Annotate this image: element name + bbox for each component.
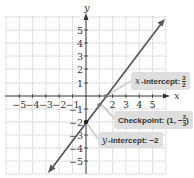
checkpoint-label: Checkpoint: (1, − 2 3 ) xyxy=(114,111,193,129)
svg-text:3: 3 xyxy=(77,51,83,62)
checkpoint-text: Checkpoint: (1, − xyxy=(118,116,183,125)
line-arrow-up-icon xyxy=(158,19,166,27)
svg-text:−4: −4 xyxy=(26,99,40,110)
svg-text:4: 4 xyxy=(136,99,142,110)
svg-text:5: 5 xyxy=(149,99,155,110)
svg-text:3: 3 xyxy=(123,99,129,110)
x-tick-labels: −5 −4 −3 −2 −1 2 3 4 5 xyxy=(12,99,155,110)
x-axis-label: x xyxy=(174,90,180,101)
svg-text:−2: −2 xyxy=(52,99,66,110)
y-intercept-point xyxy=(84,120,88,124)
y-intercept-text: -intercept: −2 xyxy=(108,136,158,145)
svg-text:2: 2 xyxy=(110,99,116,110)
svg-text:−5: −5 xyxy=(12,99,26,110)
svg-text:−2: −2 xyxy=(69,117,83,128)
svg-text:2: 2 xyxy=(77,64,83,75)
x-intercept-point xyxy=(104,94,108,98)
checkpoint-suffix: ) xyxy=(186,116,189,125)
y-intercept-label: y -intercept: −2 xyxy=(98,132,163,148)
svg-text:5: 5 xyxy=(77,25,83,36)
svg-text:1: 1 xyxy=(77,78,83,89)
svg-text:−3: −3 xyxy=(39,99,53,110)
y-axis-arrow-icon xyxy=(84,13,89,20)
svg-text:−1: −1 xyxy=(69,104,83,115)
svg-text:4: 4 xyxy=(77,38,83,49)
x-intercept-fraction: 3 2 xyxy=(182,75,185,88)
x-intercept-label: x -intercept: 3 2 xyxy=(131,72,190,90)
y-axis-label: y xyxy=(83,2,90,13)
x-var: x xyxy=(135,76,140,86)
y-intercept-leader xyxy=(86,122,98,139)
svg-text:−5: −5 xyxy=(69,156,83,167)
x-intercept-text: -intercept: xyxy=(141,77,180,86)
checkpoint-point xyxy=(97,103,101,107)
fraction-denominator: 2 xyxy=(182,82,185,88)
fraction-numerator: 3 xyxy=(182,75,185,82)
y-var: y xyxy=(102,135,107,145)
x-axis-arrow-icon xyxy=(163,94,170,99)
